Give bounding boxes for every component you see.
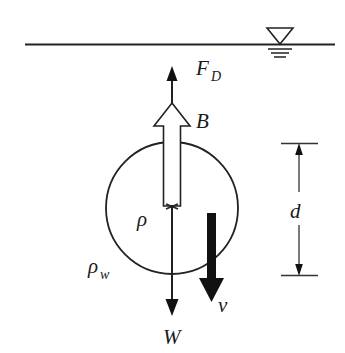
label-buoyancy: B [196, 109, 209, 133]
label-density-sphere: ρ [136, 207, 147, 231]
velocity-arrow-icon [199, 213, 224, 302]
weight-arrow-icon [166, 204, 179, 316]
label-drag-force: F [195, 56, 209, 80]
label-density-water-subscript: w [100, 267, 110, 282]
label-velocity: v [218, 293, 228, 317]
label-depth: d [290, 199, 301, 223]
label-weight: W [163, 325, 183, 349]
label-drag-force-subscript: D [210, 69, 221, 84]
water-table-symbol-icon [267, 28, 293, 57]
buoyancy-arrow-icon [154, 103, 190, 206]
diagram-canvas: F D B ρ ρ w v W d [0, 0, 345, 353]
label-density-water: ρ [87, 254, 98, 278]
physics-diagram-figure: F D B ρ ρ w v W d [0, 0, 345, 353]
